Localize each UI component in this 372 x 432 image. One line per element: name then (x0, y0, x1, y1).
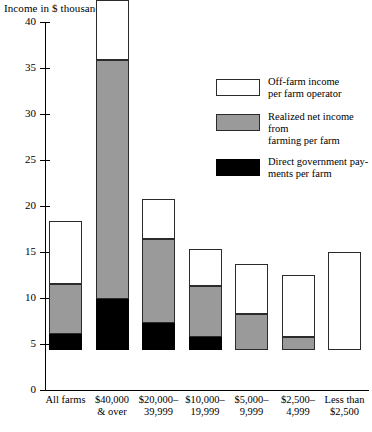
y-tick-label: 15 (0, 252, 38, 253)
legend-swatch-gray (216, 114, 260, 131)
legend-swatch-black (216, 159, 260, 176)
legend-item: Off-farm incomeper farm operator (216, 76, 370, 102)
plot-area: 0510152025303540 All farms$40,000& over$… (0, 0, 372, 432)
bar-segment-white (189, 249, 222, 286)
legend: Off-farm incomeper farm operatorRealized… (216, 76, 370, 191)
bar-column (96, 0, 129, 350)
y-tick-label-text: 10 (25, 292, 36, 303)
bar-segment-black (142, 323, 175, 350)
legend-label-line2: ments per farm (268, 168, 370, 180)
y-tick-label-text: 25 (25, 154, 36, 165)
bar-segment-white (142, 199, 175, 239)
bar-segment-gray (282, 337, 315, 350)
y-tick-label: 35 (0, 68, 38, 69)
bar-segment-white (49, 221, 82, 284)
bar-column (49, 0, 82, 350)
bar-segment-black (96, 299, 129, 350)
x-axis-label: Less than$2,500 (317, 394, 372, 418)
y-tick-label-text: 20 (25, 200, 36, 211)
stacked-bar-chart: Income in $ thousands 0510152025303540 A… (0, 0, 372, 432)
y-tick-label-text: 15 (25, 246, 36, 257)
y-tick-label-text: 40 (25, 16, 36, 27)
y-tick-label: 30 (0, 114, 38, 115)
y-tick-label: 0 (0, 390, 38, 391)
legend-swatch-white (216, 79, 260, 96)
legend-item: Direct government pay-ments per farm (216, 156, 370, 182)
legend-label-line1: Direct government pay- (268, 156, 370, 168)
legend-label-line1: Realized net income from (268, 111, 370, 135)
bar-segment-gray (49, 284, 82, 335)
bar-segment-gray (189, 286, 222, 338)
x-axis-label-line1: All farms (46, 394, 86, 405)
legend-label-line1: Off-farm income (268, 76, 370, 88)
bar-segment-gray (142, 239, 175, 324)
bar-segment-white (96, 0, 129, 60)
y-tick-label-text: 35 (25, 62, 36, 73)
stacked-bar (96, 0, 129, 350)
stacked-bar (49, 0, 82, 350)
y-tick-label: 25 (0, 160, 38, 161)
bar-segment-black (189, 337, 222, 350)
bar-group (45, 0, 369, 391)
x-axis-label-line1: Less than (325, 394, 365, 405)
y-tick-label: 20 (0, 206, 38, 207)
x-axis-label-line1: $40,000 (95, 394, 129, 405)
x-axis-label-line1: $5,000– (234, 394, 268, 405)
x-axis-label-line1: $10,000– (185, 394, 224, 405)
y-tick-label-text: 30 (25, 108, 36, 119)
legend-label-line2: per farm operator (268, 88, 370, 100)
y-tick-label: 40 (0, 22, 38, 23)
stacked-bar (142, 0, 175, 350)
bar-segment-gray (235, 314, 268, 350)
bar-segment-white (235, 264, 268, 315)
y-tick-label: 5 (0, 344, 38, 345)
bar-column (142, 0, 175, 350)
x-axis-label-line2: $2,500 (317, 406, 372, 418)
bar-segment-black (49, 334, 82, 350)
x-axis-label-line1: $2,500– (281, 394, 315, 405)
y-tick-label: 10 (0, 298, 38, 299)
y-tick-label-text: 5 (31, 338, 37, 349)
bar-segment-gray (96, 60, 129, 299)
y-tick-label-text: 0 (31, 384, 37, 395)
legend-item: Realized net income fromfarming per farm (216, 111, 370, 147)
x-axis-label-line1: $20,000– (139, 394, 178, 405)
bar-segment-white (328, 252, 361, 350)
legend-label-line2: farming per farm (268, 135, 370, 147)
bar-segment-white (282, 275, 315, 338)
